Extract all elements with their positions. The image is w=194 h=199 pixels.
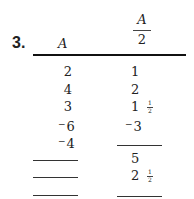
column-b-header: A 2 — [132, 12, 152, 47]
column-a-header: A — [58, 36, 67, 51]
cell-a-row5: −4 — [58, 134, 72, 151]
blank-b-row5 — [117, 145, 162, 146]
cell-a-row1: 2 — [58, 65, 72, 79]
cell-b-row6: 5 — [131, 152, 139, 166]
fraction-bar — [133, 30, 151, 31]
cell-b-row2: 2 — [131, 83, 139, 97]
cell-a-row4: −6 — [58, 117, 72, 134]
cell-b-row7: 2 — [131, 169, 139, 183]
blank-a-row8 — [33, 195, 78, 196]
cell-b-row3: 1 — [131, 100, 139, 114]
header-denominator: 2 — [132, 33, 152, 47]
header-rule — [33, 54, 186, 56]
negative-sign: − — [58, 119, 66, 129]
header-numerator: A — [132, 12, 152, 28]
cell-a-row2: 4 — [58, 83, 72, 97]
cell-b-row1: 1 — [131, 65, 139, 79]
problem-number: 3. — [12, 34, 25, 52]
half-fraction: 12 — [147, 100, 153, 114]
blank-b-row8 — [117, 196, 162, 197]
negative-sign: − — [125, 119, 133, 129]
blank-a-row7 — [33, 177, 78, 178]
cell-a-row3: 3 — [58, 100, 72, 114]
cell-b-row4: −3 — [125, 117, 142, 134]
blank-a-row6 — [33, 160, 78, 161]
negative-sign: − — [58, 136, 66, 146]
half-fraction: 12 — [147, 169, 153, 183]
